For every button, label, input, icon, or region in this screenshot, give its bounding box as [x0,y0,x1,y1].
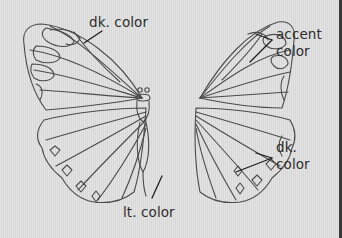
butterfly-color-diagram: dk. color accent color dk. color lt. col… [0,0,342,238]
callout-lt [152,176,162,198]
label-dk-color-right: dk. color [276,139,310,173]
callout-dk-top [84,31,102,43]
left-hindwing [38,108,146,203]
label-dk-color-top: dk. color [89,14,148,31]
label-lt-color: lt. color [123,204,175,221]
label-accent-color: accent color [276,26,322,60]
callout-accent-2 [250,40,272,62]
left-forewing [24,24,142,110]
